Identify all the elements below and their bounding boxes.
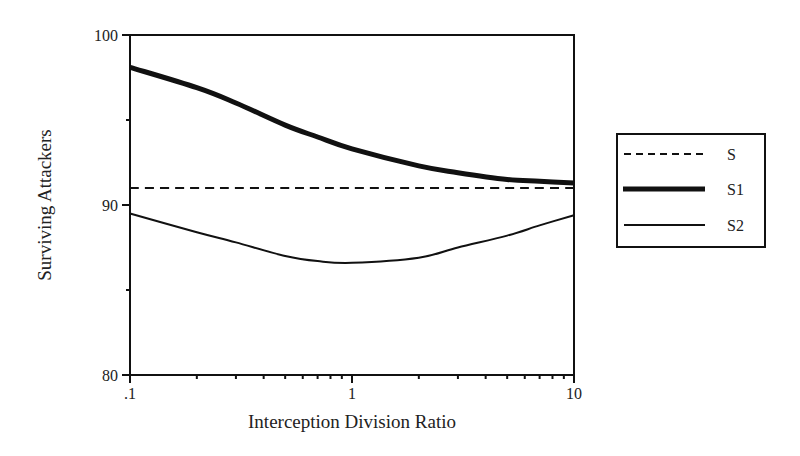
y-tick-label-80: 80 bbox=[102, 367, 118, 384]
x-axis-title: Interception Division Ratio bbox=[248, 411, 456, 432]
legend-label-s: S bbox=[727, 146, 736, 163]
y-axis-title: Surviving Attackers bbox=[34, 129, 55, 280]
series-layer bbox=[130, 67, 574, 263]
series-s2-line bbox=[130, 214, 574, 263]
series-s1-line bbox=[130, 67, 574, 183]
x-tick-label-0.1: .1 bbox=[124, 385, 136, 402]
y-tick-label-100: 100 bbox=[94, 27, 118, 44]
line-chart: 100 90 80 .1 1 10 Interception Division … bbox=[0, 0, 800, 456]
legend: S S1 S2 bbox=[617, 134, 765, 247]
y-tick-label-90: 90 bbox=[102, 197, 118, 214]
x-tick-label-1: 1 bbox=[348, 385, 356, 402]
x-axis bbox=[130, 375, 574, 383]
legend-label-s2: S2 bbox=[727, 217, 744, 234]
legend-label-s1: S1 bbox=[727, 181, 744, 198]
y-axis bbox=[122, 35, 130, 375]
x-tick-label-10: 10 bbox=[566, 385, 582, 402]
